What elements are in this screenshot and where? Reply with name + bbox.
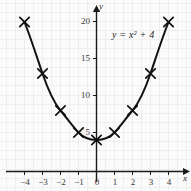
- y-tick-label-20: 20: [62, 17, 90, 26]
- x-tick-label-4: 4: [167, 178, 172, 187]
- graph-figure: y = x² + 4 5 10 15 20 −4 −3 −2 −1 0 1 2 …: [0, 0, 191, 191]
- y-tick-label-15: 15: [62, 54, 90, 63]
- x-tick-label-minus-2: −2: [56, 178, 66, 187]
- data-point-marker: [164, 17, 173, 26]
- x-tick-label-minus-3: −3: [38, 178, 48, 187]
- data-point-marker: [20, 17, 29, 26]
- y-axis-label: y: [99, 2, 103, 11]
- plot-layer: [0, 0, 191, 191]
- data-point-marker: [128, 106, 137, 115]
- x-tick-label-minus-4: −4: [20, 178, 30, 187]
- x-tick-label-minus-1: −1: [74, 178, 84, 187]
- y-tick-label-5: 5: [62, 128, 90, 137]
- x-tick-label-0: 0: [95, 178, 100, 187]
- data-point-marker: [146, 69, 155, 78]
- data-point-marker: [110, 128, 119, 137]
- x-tick-label-2: 2: [131, 178, 136, 187]
- data-point-marker: [38, 69, 47, 78]
- data-point-marker: [56, 106, 65, 115]
- x-tick-label-1: 1: [113, 178, 118, 187]
- equation-label: y = x² + 4: [112, 29, 154, 40]
- x-tick-label-3: 3: [149, 178, 154, 187]
- y-tick-label-10: 10: [62, 91, 90, 100]
- x-axis-label: x: [183, 174, 187, 183]
